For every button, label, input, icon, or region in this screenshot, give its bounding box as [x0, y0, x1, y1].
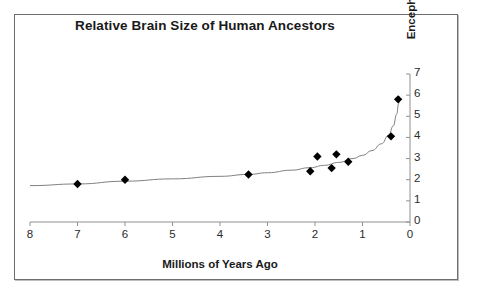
y-tick-label: 4 — [414, 129, 428, 141]
data-point — [306, 167, 314, 175]
y-tick-label: 5 — [414, 108, 428, 120]
x-tick-label: 0 — [400, 228, 420, 240]
x-tick-label: 1 — [353, 228, 373, 240]
x-tick-label: 2 — [305, 228, 325, 240]
x-tick-label: 3 — [258, 228, 278, 240]
chart-axes — [30, 74, 410, 222]
y-tick-label: 7 — [414, 66, 428, 78]
x-tick-label: 7 — [68, 228, 88, 240]
chart-figure: Relative Brain Size of Human Ancestors 8… — [0, 0, 477, 295]
x-axis-ticks — [30, 222, 410, 226]
x-tick-label: 4 — [210, 228, 230, 240]
data-point-markers — [73, 95, 402, 188]
data-point — [73, 180, 81, 188]
x-tick-label: 5 — [163, 228, 183, 240]
x-axis-title: Millions of Years Ago — [100, 258, 340, 270]
y-axis-title: Encephalization Quotiont — [405, 0, 425, 60]
data-point — [244, 170, 252, 178]
y-tick-label: 0 — [414, 214, 428, 226]
x-tick-label: 8 — [20, 228, 40, 240]
x-tick-label: 6 — [115, 228, 135, 240]
data-point — [313, 152, 321, 160]
data-point — [394, 95, 402, 103]
y-tick-label: 2 — [414, 172, 428, 184]
data-point — [332, 150, 340, 158]
data-point — [387, 132, 395, 140]
data-point — [121, 176, 129, 184]
y-tick-label: 1 — [414, 193, 428, 205]
y-axis-ticks — [406, 74, 410, 222]
y-tick-label: 3 — [414, 151, 428, 163]
trendline — [30, 96, 400, 185]
y-tick-label: 6 — [414, 87, 428, 99]
